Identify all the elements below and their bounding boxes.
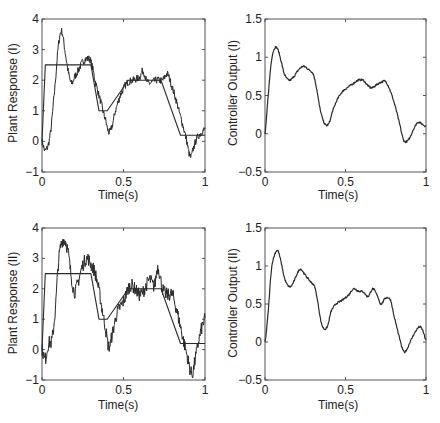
y-tick-label: −1 [25,373,39,387]
y-axis-label: Controller Output (I) [226,18,240,168]
plot-area: −0.500.511.500.51 [220,0,440,210]
plot-area: −0.500.511.500.51 [220,210,440,423]
y-tick-label: −1 [25,165,39,179]
x-tick-label: 1 [202,383,209,397]
x-tick-label: 0.5 [337,383,354,397]
y-tick-label: 0.5 [245,89,262,103]
y-tick-label: 4 [32,221,39,235]
y-tick-label: 1 [255,259,262,273]
x-tick-label: 0 [262,383,269,397]
x-axis-label: Time(s) [318,188,358,202]
y-tick-label: 0 [255,335,262,349]
plot-frame [42,19,205,172]
y-tick-label: 2 [32,73,39,87]
x-tick-label: 0 [39,175,46,189]
chart-controller-output-2: −0.500.511.500.51 Controller Output (II)… [220,210,440,423]
x-axis-label: Time(s) [98,398,138,412]
chart-plant-response-2: −10123400.51 Plant Response (II) Time(s) [0,210,220,423]
y-axis-label: Plant Response (I) [6,18,20,168]
y-tick-label: 0 [32,134,39,148]
reference-line [42,274,205,350]
chart-plant-response-1: −10123400.51 Plant Response (I) Time(s) [0,0,220,210]
x-tick-label: 0 [262,175,269,189]
plot-frame [265,228,426,380]
x-tick-label: 0.5 [115,383,132,397]
y-tick-label: 1.5 [245,221,262,235]
chart-controller-output-1: −0.500.511.500.51 Controller Output (I) … [220,0,440,210]
y-tick-label: 0 [32,343,39,357]
x-tick-label: 0.5 [337,175,354,189]
controller-line [265,250,426,353]
y-axis-label: Plant Response (II) [6,228,20,378]
x-tick-label: 1 [202,175,209,189]
x-tick-label: 1 [423,383,430,397]
y-tick-label: 1 [32,104,39,118]
x-axis-label: Time(s) [98,188,138,202]
y-tick-label: 2 [32,282,39,296]
y-tick-label: 4 [32,12,39,26]
y-axis-label: Controller Output (II) [226,228,240,378]
y-tick-label: 0 [255,127,262,141]
y-tick-label: 1 [32,312,39,326]
x-tick-label: 0.5 [115,175,132,189]
controller-line [265,47,426,143]
y-tick-label: −0.5 [238,165,262,179]
y-tick-label: 3 [32,251,39,265]
y-tick-label: 0.5 [245,297,262,311]
reference-line [42,65,205,141]
plot-area: −10123400.51 [0,210,220,423]
response-line [42,239,205,378]
y-tick-label: −0.5 [238,373,262,387]
x-tick-label: 0 [39,383,46,397]
plot-frame [265,19,426,172]
plot-area: −10123400.51 [0,0,220,210]
y-tick-label: 1 [255,50,262,64]
x-axis-label: Time(s) [318,398,358,412]
x-tick-label: 1 [423,175,430,189]
y-tick-label: 3 [32,43,39,57]
response-line [42,28,205,157]
y-tick-label: 1.5 [245,12,262,26]
